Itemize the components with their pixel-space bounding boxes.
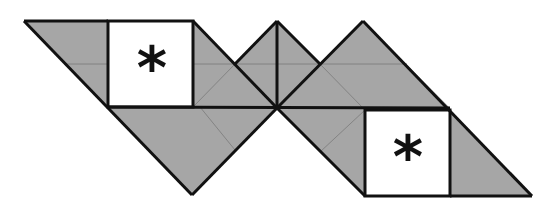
asterisk-left: *	[137, 34, 167, 102]
asterisk-right: *	[393, 123, 423, 191]
triangle-lower-left	[108, 107, 277, 195]
net-diagram: * *	[0, 0, 546, 206]
